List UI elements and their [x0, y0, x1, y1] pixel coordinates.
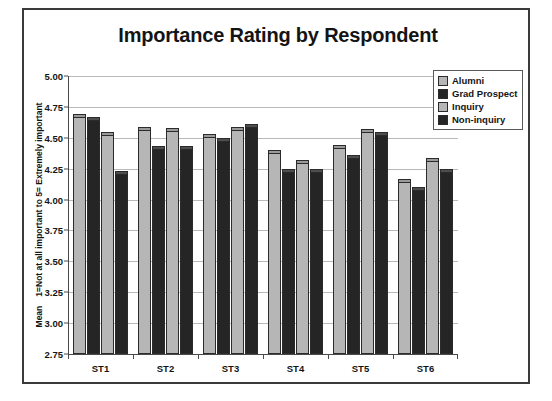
- legend-label: Grad Prospect: [452, 88, 517, 99]
- y-axis-tick-label: 3.00: [45, 318, 64, 329]
- legend-swatch-icon: [438, 76, 448, 86]
- y-axis-tick-label: 4.50: [45, 132, 64, 143]
- bar-body: [166, 131, 179, 354]
- bar-groups: [68, 76, 458, 354]
- y-axis-tick-label: 4.00: [45, 194, 64, 205]
- bar-st2-inquiry: [166, 128, 179, 354]
- bar-group: [133, 76, 198, 354]
- bar-body: [268, 153, 281, 354]
- bar-st5-grad-prospect: [347, 155, 360, 354]
- x-axis-label-st6: ST6: [393, 363, 458, 374]
- bar-st5-alumni: [333, 145, 346, 354]
- bar-body: [440, 172, 453, 354]
- bar-body: [73, 117, 86, 354]
- legend-label: Inquiry: [452, 101, 484, 112]
- legend-item-alumni: Alumni: [438, 74, 517, 87]
- bar-group: [263, 76, 328, 354]
- bar-body: [115, 174, 128, 354]
- y-axis-tick-label: 4.75: [45, 101, 64, 112]
- bar-body: [203, 137, 216, 354]
- bar-body: [152, 149, 165, 354]
- legend-label: Alumni: [452, 75, 484, 86]
- x-axis: ST1ST2ST3ST4ST5ST6: [68, 354, 458, 380]
- bar-body: [426, 161, 439, 354]
- bar-st6-alumni: [398, 179, 411, 354]
- y-axis-tick-label: 5.00: [45, 71, 64, 82]
- bar-body: [310, 172, 323, 354]
- legend-swatch-icon: [438, 102, 448, 112]
- x-tick-mark: [263, 354, 264, 359]
- x-axis-labels: ST1ST2ST3ST4ST5ST6: [68, 363, 458, 374]
- bar-body: [282, 172, 295, 354]
- y-axis-tick-label: 3.25: [45, 287, 64, 298]
- y-axis-title-line-1: Mean: [34, 306, 44, 328]
- x-tick-mark: [68, 354, 69, 359]
- y-axis-tick-label: 3.75: [45, 225, 64, 236]
- chart-title: Importance Rating by Respondent: [24, 24, 532, 47]
- bar-st6-non-inquiry: [440, 169, 453, 354]
- legend-label: Non-inquiry: [452, 114, 505, 125]
- bar-body: [412, 190, 425, 354]
- bar-body: [296, 163, 309, 354]
- bar-body: [361, 132, 374, 354]
- y-axis-tick-label: 3.50: [45, 256, 64, 267]
- legend-swatch-icon: [438, 89, 448, 99]
- bar-body: [333, 148, 346, 354]
- x-tick-mark: [393, 354, 394, 359]
- bar-st5-inquiry: [361, 129, 374, 354]
- bar-body: [180, 149, 193, 354]
- bar-st1-alumni: [73, 114, 86, 354]
- x-axis-label-st4: ST4: [263, 363, 328, 374]
- y-axis-title-line-2: 1=Not at all important to 5= Extremely i…: [34, 103, 44, 297]
- bar-st4-grad-prospect: [282, 169, 295, 354]
- bar-st2-alumni: [138, 127, 151, 354]
- x-tick-mark: [457, 354, 458, 359]
- bar-body: [217, 141, 230, 354]
- bar-body: [375, 135, 388, 354]
- bar-st1-grad-prospect: [87, 117, 100, 354]
- bar-body: [87, 120, 100, 354]
- bar-body: [245, 127, 258, 354]
- bar-st3-non-inquiry: [245, 124, 258, 354]
- bar-st1-non-inquiry: [115, 171, 128, 354]
- chart-frame: Importance Rating by Respondent Mean 1=N…: [22, 8, 530, 384]
- bar-st2-non-inquiry: [180, 146, 193, 354]
- legend-swatch-icon: [438, 115, 448, 125]
- x-tick-mark: [328, 354, 329, 359]
- x-axis-label-st1: ST1: [68, 363, 133, 374]
- bar-body: [398, 182, 411, 354]
- bar-body: [101, 135, 114, 354]
- bar-group: [198, 76, 263, 354]
- bar-st3-alumni: [203, 134, 216, 354]
- bar-st6-grad-prospect: [412, 187, 425, 354]
- bar-body: [138, 130, 151, 354]
- y-axis-tick-label: 4.25: [45, 163, 64, 174]
- bar-st2-grad-prospect: [152, 146, 165, 354]
- bar-body: [231, 130, 244, 354]
- y-axis-tick-label: 2.75: [45, 349, 64, 360]
- bar-st6-inquiry: [426, 158, 439, 354]
- bar-st3-grad-prospect: [217, 138, 230, 354]
- bar-st4-non-inquiry: [310, 169, 323, 354]
- bar-st4-inquiry: [296, 160, 309, 354]
- bar-st3-inquiry: [231, 127, 244, 354]
- x-tick-mark: [198, 354, 199, 359]
- x-axis-label-st2: ST2: [133, 363, 198, 374]
- bar-st4-alumni: [268, 150, 281, 354]
- bar-group: [68, 76, 133, 354]
- x-axis-label-st5: ST5: [328, 363, 393, 374]
- legend-item-inquiry: Inquiry: [438, 100, 517, 113]
- chart-legend: AlumniGrad ProspectInquiryNon-inquiry: [433, 70, 523, 130]
- legend-item-non-inquiry: Non-inquiry: [438, 113, 517, 126]
- y-axis-title: Mean 1=Not at all important to 5= Extrem…: [30, 76, 48, 354]
- legend-item-grad-prospect: Grad Prospect: [438, 87, 517, 100]
- bar-st1-inquiry: [101, 132, 114, 354]
- bar-body: [347, 158, 360, 354]
- x-tick-mark: [133, 354, 134, 359]
- plot-area: 5.004.754.504.254.003.753.503.253.002.75: [68, 76, 458, 354]
- bar-st5-non-inquiry: [375, 132, 388, 354]
- x-axis-label-st3: ST3: [198, 363, 263, 374]
- bar-group: [328, 76, 393, 354]
